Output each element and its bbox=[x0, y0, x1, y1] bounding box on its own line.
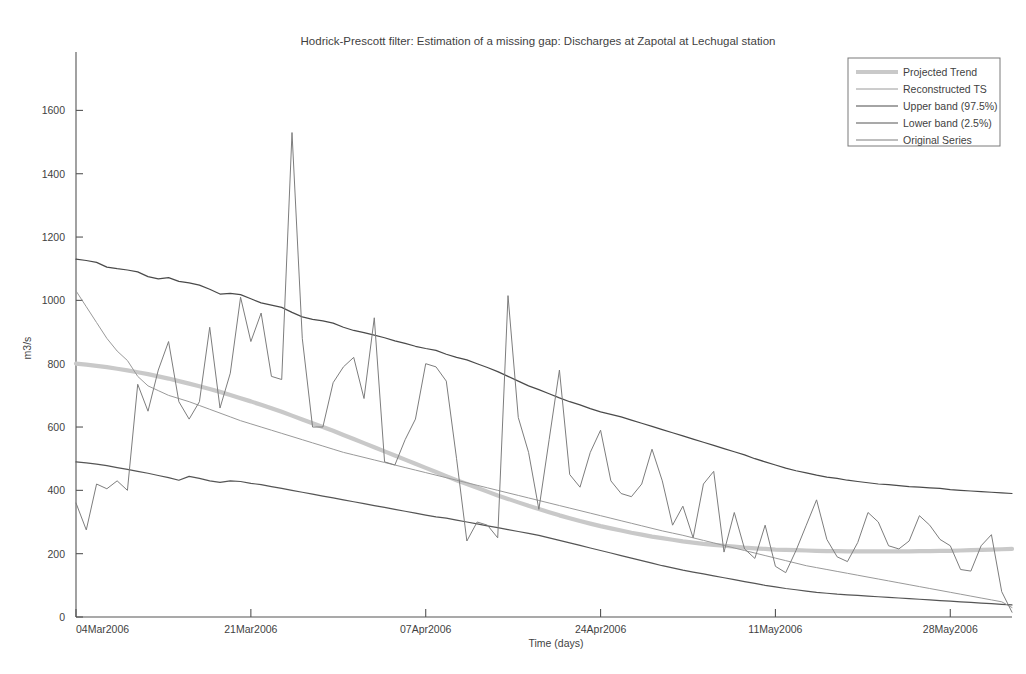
y-tick-label: 0 bbox=[59, 611, 65, 623]
y-tick-label: 400 bbox=[47, 484, 65, 496]
legend-label: Lower band (2.5%) bbox=[903, 117, 992, 129]
figure-container: Hodrick-Prescott filter: Estimation of a… bbox=[0, 0, 1026, 674]
legend-label: Reconstructed TS bbox=[903, 83, 987, 95]
x-tick-label: 21Mar2006 bbox=[224, 623, 277, 635]
y-tick-label: 200 bbox=[47, 548, 65, 560]
x-tick-label: 07Apr2006 bbox=[400, 623, 452, 635]
chart-title: Hodrick-Prescott filter: Estimation of a… bbox=[301, 35, 776, 47]
legend-label: Upper band (97.5%) bbox=[903, 100, 998, 112]
chart-canvas: Hodrick-Prescott filter: Estimation of a… bbox=[0, 0, 1026, 674]
legend-label: Original Series bbox=[903, 134, 972, 146]
legend-label: Projected Trend bbox=[903, 66, 977, 78]
y-tick-label: 800 bbox=[47, 358, 65, 370]
x-tick-label: 04Mar2006 bbox=[76, 623, 129, 635]
x-axis-label: Time (days) bbox=[528, 637, 583, 649]
x-tick-label: 28May2006 bbox=[923, 623, 978, 635]
x-tick-label: 24Apr2006 bbox=[575, 623, 627, 635]
y-tick-label: 600 bbox=[47, 421, 65, 433]
y-tick-label: 1200 bbox=[42, 231, 66, 243]
chart-legend[interactable]: Projected TrendReconstructed TSUpper ban… bbox=[848, 58, 1000, 146]
y-tick-label: 1000 bbox=[42, 294, 66, 306]
x-tick-label: 11May2006 bbox=[748, 623, 802, 635]
y-tick-label: 1600 bbox=[42, 104, 66, 116]
y-tick-label: 1400 bbox=[42, 168, 66, 180]
y-axis-label: m3/s bbox=[21, 337, 33, 360]
